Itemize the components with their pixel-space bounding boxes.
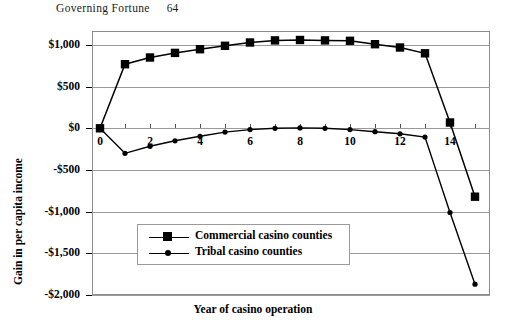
data-point-marker-circle: [472, 282, 477, 287]
data-point-marker-circle: [297, 125, 302, 130]
data-point-marker-circle: [97, 126, 102, 131]
chart-legend: Commercial casino counties Tribal casino…: [137, 224, 350, 265]
data-point-marker-square: [146, 53, 154, 61]
data-point-marker-square: [221, 42, 229, 50]
data-point-marker-square: [321, 36, 329, 44]
data-point-marker-square: [471, 193, 479, 201]
series-line-commercial: [100, 40, 475, 197]
legend-label-tribal: Tribal casino counties: [195, 245, 302, 257]
data-point-marker-circle: [222, 130, 227, 135]
data-point-marker-square: [446, 118, 454, 126]
data-point-marker-circle: [122, 151, 127, 156]
data-point-marker-circle: [447, 210, 452, 215]
square-marker-icon: [163, 232, 172, 241]
legend-label-commercial: Commercial casino counties: [195, 229, 332, 241]
figure-casino-income-chart: $1,000$500$0-$500-$1,000-$1,500-$2,000 0…: [0, 0, 506, 324]
data-series-lines: [0, 0, 506, 324]
data-point-marker-square: [396, 43, 404, 51]
data-point-marker-circle: [372, 129, 377, 134]
data-point-marker-square: [171, 49, 179, 57]
data-point-marker-circle: [147, 144, 152, 149]
circle-marker-icon: [165, 250, 171, 256]
data-point-marker-circle: [397, 131, 402, 136]
data-point-marker-square: [271, 36, 279, 44]
data-point-marker-square: [371, 40, 379, 48]
data-point-marker-circle: [197, 134, 202, 139]
data-point-marker-circle: [272, 126, 277, 131]
data-point-marker-circle: [322, 126, 327, 131]
data-point-marker-square: [121, 60, 129, 68]
data-point-marker-circle: [347, 127, 352, 132]
data-point-marker-square: [346, 37, 354, 45]
data-point-marker-square: [296, 36, 304, 44]
data-point-marker-square: [196, 45, 204, 53]
data-point-marker-circle: [422, 135, 427, 140]
data-point-marker-square: [421, 49, 429, 57]
data-point-marker-circle: [247, 127, 252, 132]
data-point-marker-circle: [172, 138, 177, 143]
data-point-marker-square: [246, 38, 254, 46]
